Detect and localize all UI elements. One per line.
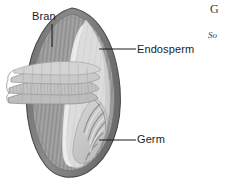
label-germ: Germ (137, 133, 165, 145)
label-bran: Bran (32, 10, 56, 22)
margin-text-line-2: So (208, 30, 217, 40)
margin-text-line-1: G (210, 3, 219, 16)
kernel-diagram-illustration (0, 0, 230, 189)
grain-kernel-figure: Bran Endosperm Germ G So (0, 0, 230, 189)
label-endosperm: Endosperm (137, 43, 194, 55)
bran-peeled-flap (7, 61, 101, 104)
